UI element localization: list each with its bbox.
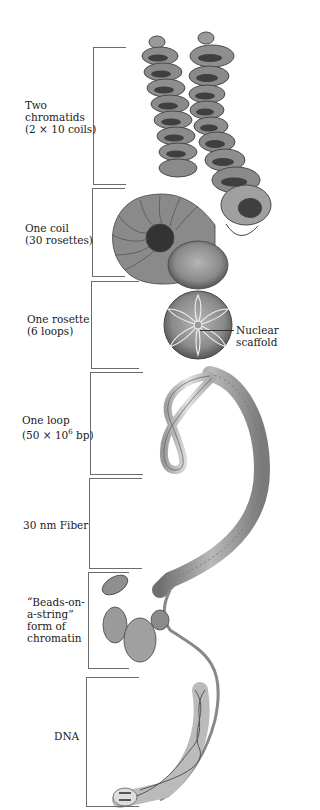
label-dna: DNA [54,730,79,742]
bracket-30nm-fiber [89,478,142,569]
bracket-beads-on-a-string [88,572,129,669]
callout-leader-line [200,330,234,331]
label-nuclear-scaffold: Nuclear scaffold [236,324,279,348]
label-one-rosette: One rosette (6 loops) [27,313,90,337]
label-30nm-fiber: 30 nm Fiber [23,519,88,531]
bracket-one-loop [90,372,143,475]
bracket-one-coil [92,188,125,277]
rosette [164,291,232,359]
label-two-chromatids: Two chromatids (2 × 10 coils) [25,99,96,135]
loop-and-fiber [160,374,262,590]
bracket-one-rosette [91,281,139,369]
label-beads-on-a-string: “Beads-on- a-string” form of chromatin [27,596,85,644]
bracket-dna [86,677,139,807]
coil [112,194,228,289]
bracket-two-chromatids [93,47,126,185]
label-one-coil: One coil (30 rosettes) [25,222,93,246]
label-one-loop: One loop (50 × 106 bp) [22,414,94,441]
